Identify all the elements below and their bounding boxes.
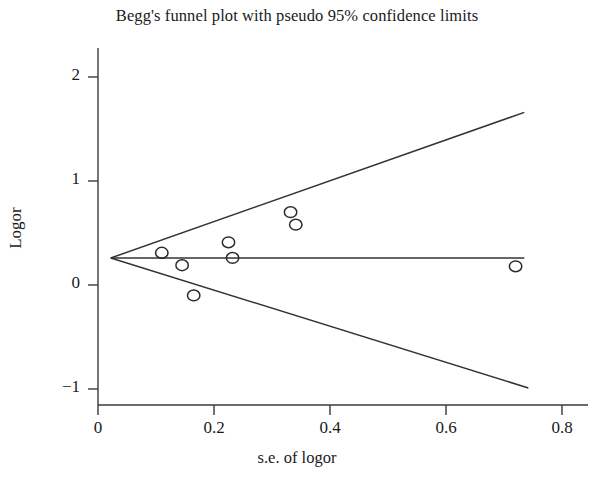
axes-group <box>98 48 588 405</box>
funnel-plot-figure: Begg's funnel plot with pseudo 95% confi… <box>0 0 594 480</box>
y-tick-label: −1 <box>18 377 80 397</box>
data-point <box>176 260 188 271</box>
study-data-points <box>156 207 522 301</box>
data-point <box>156 247 168 258</box>
data-point <box>284 207 296 218</box>
x-tick-label: 0.4 <box>308 418 352 438</box>
x-tick-marks <box>98 405 562 415</box>
y-tick-label: 2 <box>18 65 80 85</box>
data-point <box>222 237 234 248</box>
x-tick-label: 0.8 <box>540 418 584 438</box>
x-tick-label: 0.2 <box>192 418 236 438</box>
y-tick-marks <box>88 77 98 389</box>
pseudo-95-confidence-limits <box>111 112 529 388</box>
lower-confidence-limit-line <box>111 258 529 388</box>
data-point <box>509 261 521 272</box>
upper-confidence-limit-line <box>111 112 525 258</box>
plot-canvas <box>0 0 594 480</box>
y-tick-label: 0 <box>18 273 80 293</box>
x-tick-label: 0.6 <box>424 418 468 438</box>
data-point <box>290 219 302 230</box>
y-tick-label: 1 <box>18 169 80 189</box>
data-point <box>188 290 200 301</box>
x-tick-label: 0 <box>76 418 120 438</box>
